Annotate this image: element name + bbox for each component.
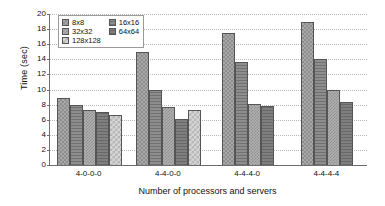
legend-swatch-icon <box>109 28 116 35</box>
x-axis-tick-label: 4-0-0-0 <box>49 169 128 178</box>
legend-label: 128x128 <box>72 36 101 45</box>
x-axis-tick-label: 4-4-4-4 <box>287 169 366 178</box>
bar-chart: Time (sec) 02468101214161820 4-0-0-04-4-… <box>0 0 385 206</box>
legend-item[interactable]: 8x8 <box>62 18 101 27</box>
bar[interactable] <box>222 33 235 165</box>
y-axis-tick-label: 8 <box>24 101 46 109</box>
legend-swatch-icon <box>62 28 69 35</box>
bar[interactable] <box>235 62 248 165</box>
legend-swatch-icon <box>62 37 69 44</box>
legend-item[interactable]: 32x32 <box>62 27 101 36</box>
x-axis-tick-label: 4-4-0-0 <box>128 169 207 178</box>
bar[interactable] <box>57 98 70 165</box>
y-axis-tick-label: 16 <box>24 40 46 48</box>
legend-swatch-icon <box>62 19 69 26</box>
legend-swatch-icon <box>109 19 116 26</box>
bar[interactable] <box>149 90 162 166</box>
bar[interactable] <box>70 105 83 165</box>
bar[interactable] <box>96 112 109 165</box>
bar[interactable] <box>136 52 149 165</box>
y-axis-tick-label: 20 <box>24 10 46 18</box>
bar[interactable] <box>83 110 96 165</box>
bar-group <box>209 14 288 165</box>
bar[interactable] <box>162 107 175 165</box>
y-axis-tick-label: 12 <box>24 70 46 78</box>
bar[interactable] <box>327 90 340 166</box>
legend-item[interactable]: 128x128 <box>62 36 101 45</box>
y-axis-tick-label: 18 <box>24 25 46 33</box>
y-axis-tick-label: 10 <box>24 86 46 94</box>
bar[interactable] <box>188 110 201 165</box>
legend-label: 8x8 <box>72 18 84 27</box>
x-axis-tick-label: 4-4-4-0 <box>208 169 287 178</box>
y-axis-tickmark <box>47 165 50 166</box>
y-axis-tick-labels: 02468101214161820 <box>24 14 46 165</box>
bar[interactable] <box>340 102 353 165</box>
legend-item[interactable]: 64x64 <box>109 27 139 36</box>
legend-item[interactable]: 16x16 <box>109 18 139 27</box>
bar[interactable] <box>314 59 327 165</box>
legend: 8x816x1632x3264x64128x128 <box>58 15 144 48</box>
y-axis-tick-label: 14 <box>24 55 46 63</box>
x-axis-tick-labels: 4-0-0-04-4-0-04-4-4-04-4-4-4 <box>49 169 366 178</box>
y-axis-tick-label: 2 <box>24 146 46 154</box>
bar[interactable] <box>301 22 314 165</box>
x-axis-title: Number of processors and servers <box>49 186 366 196</box>
legend-label: 64x64 <box>119 27 139 36</box>
bar-group <box>288 14 367 165</box>
legend-label: 32x32 <box>72 27 92 36</box>
bar[interactable] <box>261 106 274 165</box>
bar[interactable] <box>248 104 261 165</box>
legend-label: 16x16 <box>119 18 139 27</box>
bar[interactable] <box>175 119 188 165</box>
y-axis-tick-label: 6 <box>24 116 46 124</box>
bar[interactable] <box>109 115 122 165</box>
y-axis-tick-label: 4 <box>24 131 46 139</box>
y-axis-tick-label: 0 <box>24 161 46 169</box>
